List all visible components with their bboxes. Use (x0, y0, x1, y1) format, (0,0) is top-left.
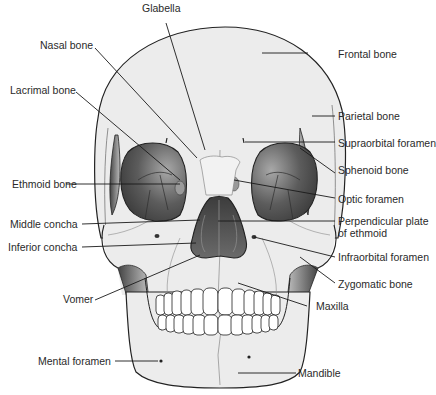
label-mandible: Mandible (298, 367, 341, 379)
label-lacrimal-bone: Lacrimal bone (10, 84, 76, 96)
label-sphenoid-bone: Sphenoid bone (338, 164, 409, 176)
label-infraorbital-foramen: Infraorbital foramen (338, 251, 429, 263)
label-zygomatic-bone: Zygomatic bone (338, 278, 413, 290)
label-ethmoid-bone: Ethmoid bone (12, 178, 77, 190)
label-supraorbital-foramen: Supraorbital foramen (338, 137, 436, 149)
label-parietal-bone: Parietal bone (338, 110, 400, 122)
label-mental-foramen: Mental foramen (38, 355, 111, 367)
label-perpendicular-plate-line2: of ethmoid (338, 227, 428, 239)
right-orbit (252, 143, 318, 221)
label-middle-concha: Middle concha (10, 218, 78, 230)
label-perpendicular-plate-line1: Perpendicular plate (338, 215, 428, 227)
label-maxilla: Maxilla (316, 300, 349, 312)
label-nasal-bone: Nasal bone (40, 39, 93, 51)
left-orbit (121, 143, 187, 221)
label-vomer: Vomer (63, 293, 93, 305)
label-optic-foramen: Optic foramen (338, 193, 404, 205)
label-glabella: Glabella (142, 2, 181, 14)
label-frontal-bone: Frontal bone (338, 48, 397, 60)
label-inferior-concha: Inferior concha (8, 241, 77, 253)
label-perpendicular-plate: Perpendicular plate of ethmoid (338, 215, 428, 239)
